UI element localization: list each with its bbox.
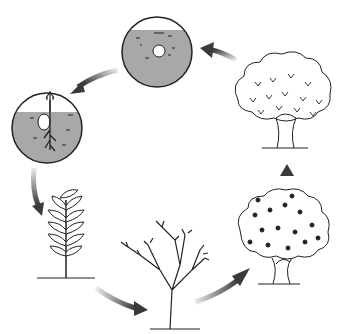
cycle-arrow-4 [195,280,238,302]
cycle-arrow-1 [78,70,118,87]
arrow-head-icon [32,202,44,216]
germinating-seed-icon [10,92,90,172]
arrow-head-icon [200,42,214,58]
life-cycle-diagram [0,0,346,334]
cycle-arrow-6 [212,50,236,60]
mature-tree-icon [235,52,331,148]
seed-in-soil-icon [120,17,200,90]
cycle-arrow-3 [96,288,135,308]
arrow-head-icon [280,164,294,176]
young-plant-icon [37,190,95,278]
growing-tree-icon [238,189,329,284]
cycle-arrow-2 [34,168,39,205]
arrow-head-icon [134,301,148,316]
